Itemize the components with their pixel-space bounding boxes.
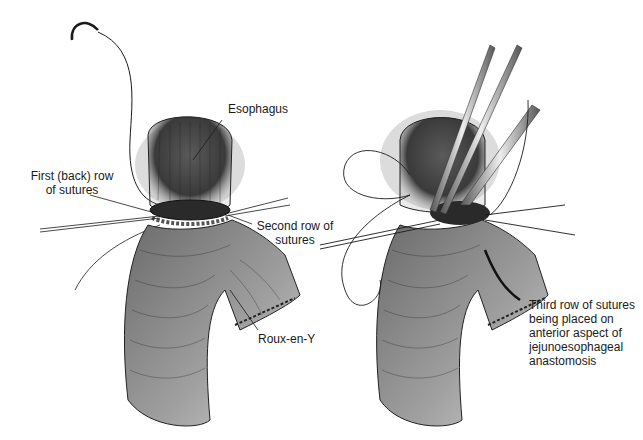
label-third-row-line3: anterior aspect of bbox=[529, 326, 635, 340]
suture-needle-icon bbox=[72, 23, 98, 40]
label-third-row-line4: jejunoesophageal bbox=[529, 340, 635, 354]
label-second-row-line1: Second row of bbox=[250, 219, 340, 233]
roux-en-y-limb-right bbox=[377, 220, 548, 426]
label-third-row-sutures: Third row of sutures being placed on ant… bbox=[529, 298, 635, 368]
label-esophagus: Esophagus bbox=[228, 102, 288, 116]
label-third-row-line5: anastomosis bbox=[529, 354, 635, 368]
roux-en-y-limb bbox=[124, 220, 300, 426]
anastomosis-opening bbox=[150, 200, 230, 220]
label-second-row-sutures: Second row of sutures bbox=[250, 219, 340, 247]
label-first-row-line2: of sutures bbox=[22, 183, 122, 197]
label-second-row-line2: sutures bbox=[250, 233, 340, 247]
right-panel-illustration bbox=[320, 45, 575, 426]
label-third-row-line2: being placed on bbox=[529, 312, 635, 326]
label-first-row-line1: First (back) row bbox=[22, 169, 122, 183]
label-roux-en-y: Roux-en-Y bbox=[258, 332, 315, 346]
label-first-row-sutures: First (back) row of sutures bbox=[22, 169, 122, 197]
label-third-row-line1: Third row of sutures bbox=[529, 298, 635, 312]
